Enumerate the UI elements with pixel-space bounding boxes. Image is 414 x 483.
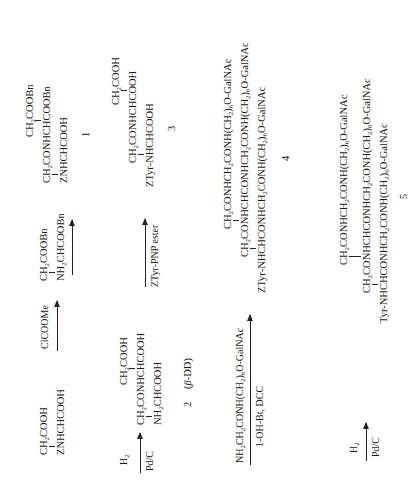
reagent-clcoome: ClCOOMe (39, 305, 50, 349)
compound5-bottom: Tyr-NHCHCONHCH2CONH(CH2)6O-GalNAc (378, 123, 389, 323)
product1-bottom: ZNHCHCOOH (58, 117, 69, 183)
reaction-arrow-5 (366, 423, 367, 461)
reaction-arrow-1 (57, 301, 58, 351)
start-material-bottom: ZNHCHCOOH (55, 389, 66, 455)
bond-line (349, 256, 361, 257)
reaction-arrow-2 (140, 433, 141, 473)
reagent-pdc-2: Pd/C (370, 437, 381, 457)
compound2-name: (β-DD) (182, 358, 193, 389)
compound3-top: CH2COOH (110, 57, 121, 105)
compound3-middle: CH2CONHCHCOOH (127, 71, 138, 163)
reagent-ztyr-pnp: ZTyr-PNP ester (149, 225, 160, 287)
compound-label-2: 2 (182, 402, 193, 407)
compound2-middle: CH2CONHCHCOOH (135, 333, 146, 425)
reagent-hobt-dcc: 1-OH-Bt, DCC (254, 386, 265, 447)
reaction-arrow-4 (250, 315, 251, 465)
product1-middle: CH2CONHCHCOOBn (41, 86, 52, 183)
reagent-compound-bottom: NH2CHCOOBn (55, 213, 66, 281)
compound-label-1: 1 (80, 132, 91, 137)
compound2-bottom: NH2CHCOOH (152, 362, 163, 425)
compound5-middle: CH2CONHCHCONHCH2CONH(CH2)6O-GalNAc (361, 78, 372, 293)
reaction-arrow-1b (72, 220, 73, 275)
product1-top: CH2COOBn (24, 84, 35, 137)
reagent-h2-2: H2 (348, 442, 359, 453)
compound5-top: CH2CONHCH2CONH(CH2)6O-GalNAc (338, 95, 349, 265)
reaction-scheme: CH2COOH ZNHCHCOOH ClCOOMe CH2COOBn NH2CH… (0, 0, 414, 483)
reaction-arrow-3 (145, 219, 146, 287)
compound4-bottom: ZTyr-NHCHCONHCH2CONH(CH2)6O-GalNAc (256, 87, 267, 293)
compound3-bottom: ZTyr-NHCHCOOH (144, 103, 155, 187)
compound2-top: CH2COOH (118, 337, 129, 385)
start-material-top: CH2COOH (38, 407, 49, 455)
reagent-h2: H2 (118, 454, 129, 465)
compound-label-4: 4 (280, 156, 291, 161)
compound4-middle: CH2CONHCHCONHCH2CONH(CH2)6O-GalNAc (239, 42, 250, 257)
reagent-pdc: Pd/C (144, 451, 155, 471)
reagent-compound-top: CH2COOBn (38, 228, 49, 281)
compound-label-5: 5 (398, 194, 409, 199)
compound-label-3: 3 (166, 126, 177, 131)
compound4-top: CH2CONHCH2CONH(CH2)6O-GalNAc (222, 59, 233, 229)
reagent-glycine-linker: NH2CH2CONH(CH2)6O-GalNAc (234, 328, 245, 463)
